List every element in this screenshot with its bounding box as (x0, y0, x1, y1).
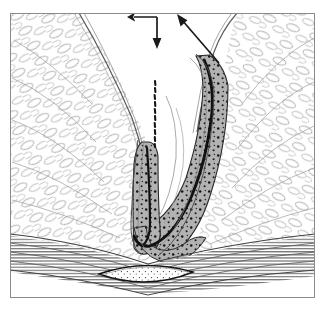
illustration-canvas (0, 0, 328, 310)
illustration-figure (0, 0, 328, 310)
